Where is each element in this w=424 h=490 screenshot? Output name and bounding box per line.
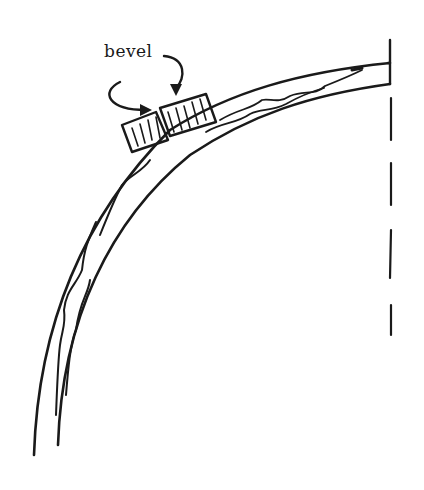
arrow-right (164, 56, 182, 96)
bevel-block-right (160, 94, 216, 136)
diagram-canvas (0, 0, 424, 490)
outer-curve (34, 63, 390, 455)
wood-grain-lines (56, 68, 362, 415)
arrow-left (109, 82, 152, 116)
inner-curve (58, 84, 390, 445)
end-cap (388, 40, 390, 84)
center-dashed-line (390, 98, 391, 335)
bevel-block-left (122, 112, 168, 152)
